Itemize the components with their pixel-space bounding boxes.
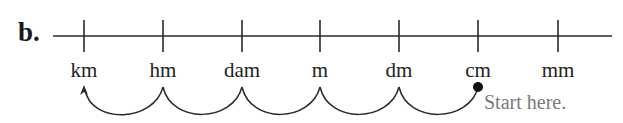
unit-label-dm: dm <box>386 58 413 83</box>
start-dot-icon <box>473 82 483 92</box>
unit-label-hm: hm <box>150 58 177 83</box>
hop-arcs <box>85 87 478 115</box>
unit-label-m: m <box>312 58 328 83</box>
unit-label-cm: cm <box>465 58 491 83</box>
start-note: Start here. <box>484 91 566 114</box>
unit-label-mm: mm <box>542 58 575 83</box>
unit-label-km: km <box>71 58 98 83</box>
unit-label-dam: dam <box>224 58 260 83</box>
arrowhead-icon <box>80 85 88 95</box>
